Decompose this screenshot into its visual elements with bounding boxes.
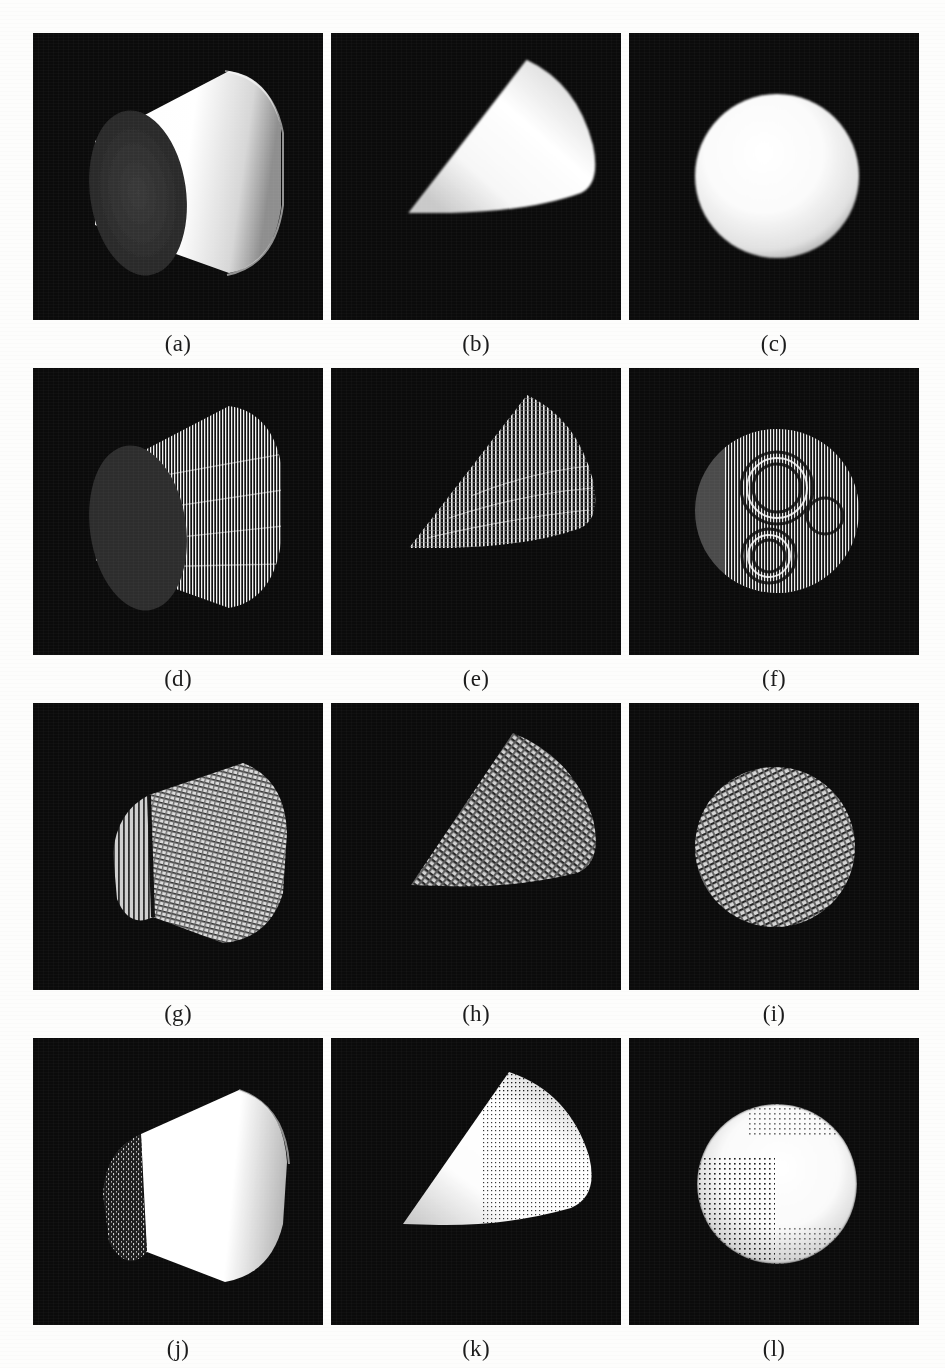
panel-image-a bbox=[33, 33, 323, 320]
cylinder-speckled-svg bbox=[33, 1038, 323, 1325]
panel-image-e bbox=[331, 368, 621, 655]
cone-smooth-svg bbox=[331, 33, 621, 320]
cropped-header-strip bbox=[0, 0, 945, 14]
cylinder-smooth-svg bbox=[33, 33, 323, 320]
cone-voxel-svg bbox=[331, 703, 621, 990]
figure-page: (a) bbox=[0, 0, 945, 1368]
figure-panel-grid: (a) bbox=[33, 33, 918, 1368]
panel-image-i bbox=[629, 703, 919, 990]
panel-caption-k: (k) bbox=[462, 1325, 490, 1368]
panel-image-d bbox=[33, 368, 323, 655]
panel-caption-h: (h) bbox=[462, 990, 490, 1038]
panel-image-k bbox=[331, 1038, 621, 1325]
panel-caption-a: (a) bbox=[165, 320, 191, 368]
sphere-speckled-svg bbox=[629, 1038, 919, 1325]
panel-image-j bbox=[33, 1038, 323, 1325]
panel-caption-e: (e) bbox=[463, 655, 489, 703]
figure-panel-b: (b) bbox=[331, 33, 621, 368]
sphere-dithered-svg bbox=[629, 368, 919, 655]
panel-caption-j: (j) bbox=[167, 1325, 190, 1368]
figure-panel-k: (k) bbox=[331, 1038, 621, 1368]
sphere-voxel-svg bbox=[629, 703, 919, 990]
panel-image-g bbox=[33, 703, 323, 990]
panel-image-h bbox=[331, 703, 621, 990]
panel-image-f bbox=[629, 368, 919, 655]
figure-panel-h: (h) bbox=[331, 703, 621, 1038]
panel-caption-d: (d) bbox=[164, 655, 192, 703]
figure-panel-a: (a) bbox=[33, 33, 323, 368]
cone-dithered-svg bbox=[331, 368, 621, 655]
figure-panel-e: (e) bbox=[331, 368, 621, 703]
panel-image-l bbox=[629, 1038, 919, 1325]
figure-panel-g: (g) bbox=[33, 703, 323, 1038]
cylinder-voxel-svg bbox=[33, 703, 323, 990]
cylinder-dithered-svg bbox=[33, 368, 323, 655]
panel-caption-l: (l) bbox=[763, 1325, 786, 1368]
figure-panel-i: (i) bbox=[629, 703, 919, 1038]
panel-caption-g: (g) bbox=[164, 990, 192, 1038]
panel-image-b bbox=[331, 33, 621, 320]
figure-panel-l: (l) bbox=[629, 1038, 919, 1368]
panel-image-c bbox=[629, 33, 919, 320]
figure-panel-d: (d) bbox=[33, 368, 323, 703]
panel-caption-i: (i) bbox=[763, 990, 786, 1038]
figure-panel-j: (j) bbox=[33, 1038, 323, 1368]
figure-panel-c: (c) bbox=[629, 33, 919, 368]
sphere-smooth-svg bbox=[629, 33, 919, 320]
panel-caption-f: (f) bbox=[762, 655, 786, 703]
figure-panel-f: (f) bbox=[629, 368, 919, 703]
cone-speckled-svg bbox=[331, 1038, 621, 1325]
panel-caption-c: (c) bbox=[761, 320, 787, 368]
panel-caption-b: (b) bbox=[462, 320, 490, 368]
